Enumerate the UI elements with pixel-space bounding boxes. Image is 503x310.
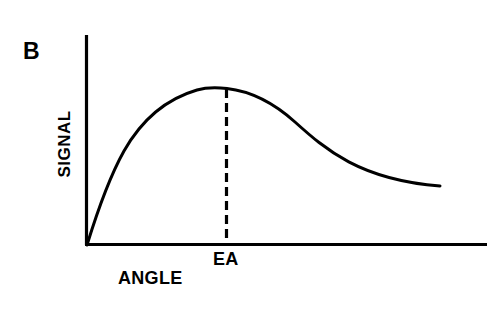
panel-label: B (23, 40, 40, 63)
x-axis-title: ANGLE (118, 269, 183, 287)
signal-vs-angle-plot (0, 0, 503, 310)
y-axis-title: SIGNAL (56, 110, 73, 177)
figure-panel-b: B SIGNAL ANGLE EA (0, 0, 503, 310)
signal-curve (87, 88, 440, 245)
ea-annotation-label: EA (213, 250, 239, 268)
